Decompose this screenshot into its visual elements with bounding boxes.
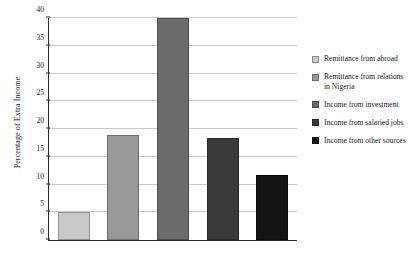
bar [58,212,90,240]
legend-item: Remittance from relations in Nigeria [312,72,407,91]
legend-item-label: Income from investment [324,100,399,110]
legend-swatch-icon [312,74,319,81]
chart-legend: Remittance from abroadRemittance from re… [312,54,407,154]
y-tick-label: 40 [37,5,45,14]
legend-swatch-icon [312,101,319,108]
legend-swatch-icon [312,119,319,126]
legend-item-label: Remittance from relations in Nigeria [324,72,407,91]
legend-item-label: Income from other sources [324,136,406,146]
y-axis-title-container: Percentage of Extra Income [8,0,28,245]
legend-item: Income from other sources [312,136,407,146]
y-tick-label: 25 [37,88,45,97]
bar-series [49,18,297,240]
y-tick-label: 10 [37,171,45,180]
y-tick-label: 35 [37,32,45,41]
legend-item: Income from investment [312,100,407,110]
bar [256,175,288,240]
bar [207,138,239,240]
legend-swatch-icon [312,56,319,63]
y-tick-label: 5 [40,199,44,208]
legend-swatch-icon [312,137,319,144]
legend-item: Income from salaried jobs [312,118,407,128]
legend-item-label: Remittance from abroad [324,54,398,64]
y-tick-label: 30 [37,60,45,69]
y-axis-title: Percentage of Extra Income [14,77,23,169]
legend-item-label: Income from salaried jobs [324,118,404,128]
y-tick-label: 15 [37,143,45,152]
y-tick-label: 0 [40,227,44,236]
bar [107,135,139,240]
y-tick-label: 20 [37,116,45,125]
legend-item: Remittance from abroad [312,54,407,64]
plot-area: 0510152025303540 [48,18,297,241]
bar [157,18,189,240]
bar-chart-figure: Percentage of Extra Income 0510152025303… [0,0,409,262]
